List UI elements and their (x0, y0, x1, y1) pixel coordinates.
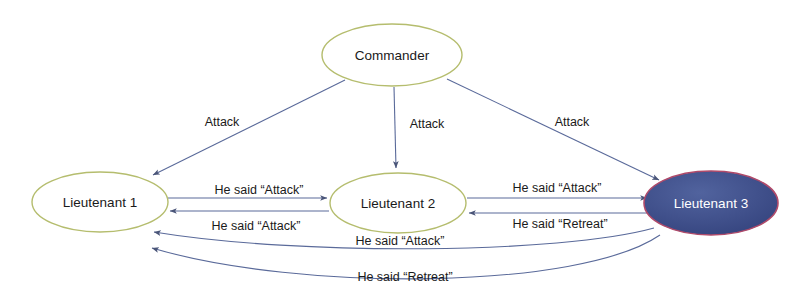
edge-label-lieutenant3-lieutenant1-retreat: He said “Retreat” (357, 270, 452, 284)
node-commander[interactable]: Commander (322, 24, 462, 86)
edge-label-lieutenant2-lieutenant3: He said “Attack” (513, 181, 602, 195)
edge-label-lieutenant3-lieutenant2: He said “Retreat” (512, 217, 607, 231)
edge-label-commander-lieutenant2: Attack (410, 117, 445, 131)
edge-label-lieutenant3-lieutenant1-attack: He said “Attack” (356, 234, 445, 248)
lieutenant2-label: Lieutenant 2 (361, 196, 435, 211)
node-lieutenant1[interactable]: Lieutenant 1 (32, 172, 168, 232)
node-lieutenant3[interactable]: Lieutenant 3 (644, 171, 778, 235)
edge-commander-to-lieutenant2 (394, 87, 396, 168)
diagram-canvas: Commander Lieutenant 1 Lieutenant 2 Lieu… (0, 0, 795, 303)
commander-label: Commander (355, 48, 430, 63)
edge-commander-to-lieutenant3 (447, 79, 659, 180)
edge-label-commander-lieutenant1: Attack (205, 115, 240, 129)
byzantine-generals-diagram: Commander Lieutenant 1 Lieutenant 2 Lieu… (0, 0, 795, 303)
lieutenant1-label: Lieutenant 1 (63, 195, 137, 210)
edge-commander-to-lieutenant1 (153, 80, 345, 175)
node-lieutenant2[interactable]: Lieutenant 2 (330, 173, 466, 233)
edge-label-commander-lieutenant3: Attack (555, 115, 590, 129)
edge-label-lieutenant1-lieutenant2: He said “Attack” (215, 183, 304, 197)
lieutenant3-label: Lieutenant 3 (674, 196, 748, 211)
edge-label-lieutenant2-lieutenant1: He said “Attack” (212, 219, 301, 233)
